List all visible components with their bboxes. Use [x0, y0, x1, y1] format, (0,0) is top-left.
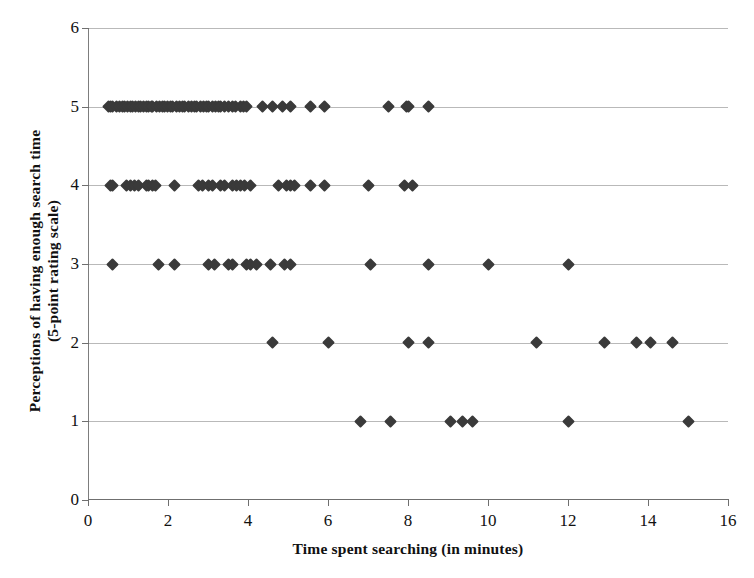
data-point-marker	[362, 179, 375, 192]
y-tick-label: 4	[71, 175, 80, 195]
x-tick-mark	[168, 499, 169, 506]
data-point-marker	[384, 415, 397, 428]
data-point-marker	[322, 336, 335, 349]
x-tick-label: 4	[244, 511, 253, 531]
data-point-marker	[364, 258, 377, 271]
data-point-marker	[266, 336, 279, 349]
scatter-chart: Perceptions of having enough search time…	[0, 0, 754, 578]
gridline	[88, 421, 728, 422]
data-point-marker	[152, 258, 165, 271]
x-tick-mark	[488, 499, 489, 506]
x-tick-label: 10	[480, 511, 497, 531]
y-tick-mark	[82, 343, 89, 344]
data-point-marker	[466, 415, 479, 428]
data-point-marker	[422, 100, 435, 113]
y-tick-mark	[82, 185, 89, 186]
data-point-marker	[318, 179, 331, 192]
x-tick-label: 8	[404, 511, 413, 531]
x-tick-mark	[88, 499, 89, 506]
data-point-marker	[106, 258, 119, 271]
y-tick-mark	[82, 28, 89, 29]
data-point-marker	[402, 336, 415, 349]
y-tick-label: 6	[71, 18, 80, 38]
data-point-marker	[482, 258, 495, 271]
data-point-marker	[168, 258, 181, 271]
data-point-marker	[168, 179, 181, 192]
x-tick-mark	[568, 499, 569, 506]
x-tick-mark	[328, 499, 329, 506]
data-point-marker	[318, 100, 331, 113]
data-point-marker	[598, 336, 611, 349]
data-point-marker	[644, 336, 657, 349]
x-tick-label: 16	[720, 511, 737, 531]
data-point-marker	[682, 415, 695, 428]
data-point-marker	[630, 336, 643, 349]
x-tick-label: 0	[84, 511, 93, 531]
x-tick-label: 12	[560, 511, 577, 531]
data-point-marker	[562, 258, 575, 271]
data-point-marker	[304, 100, 317, 113]
y-tick-label: 1	[71, 411, 80, 431]
gridline	[88, 28, 728, 29]
x-tick-mark	[248, 499, 249, 506]
y-tick-mark	[82, 421, 89, 422]
gridline	[88, 264, 728, 265]
x-tick-label: 6	[324, 511, 333, 531]
y-axis-title-line-2: (5-point rating scale)	[44, 200, 62, 342]
x-tick-mark	[648, 499, 649, 506]
data-point-marker	[666, 336, 679, 349]
data-point-marker	[444, 415, 457, 428]
data-point-marker	[562, 415, 575, 428]
data-point-marker	[406, 179, 419, 192]
x-tick-mark	[408, 499, 409, 506]
data-point-marker	[530, 336, 543, 349]
data-point-marker	[304, 179, 317, 192]
x-tick-label: 2	[164, 511, 173, 531]
data-point-marker	[422, 258, 435, 271]
data-point-marker	[382, 100, 395, 113]
y-tick-label: 5	[71, 97, 80, 117]
plot-area: 0123456 0246810121416	[88, 28, 728, 500]
y-tick-mark	[82, 107, 89, 108]
x-tick-mark	[728, 499, 729, 506]
y-tick-label: 2	[71, 333, 80, 353]
y-tick-mark	[82, 264, 89, 265]
x-axis-title: Time spent searching (in minutes)	[88, 540, 728, 558]
y-tick-label: 3	[71, 254, 80, 274]
y-tick-label: 0	[71, 490, 80, 510]
data-point-marker	[422, 336, 435, 349]
data-point-marker	[264, 258, 277, 271]
y-axis-title: Perceptions of having enough search time…	[21, 41, 67, 501]
y-axis-title-line-1: Perceptions of having enough search time	[26, 130, 44, 413]
x-tick-label: 14	[640, 511, 657, 531]
data-point-marker	[354, 415, 367, 428]
